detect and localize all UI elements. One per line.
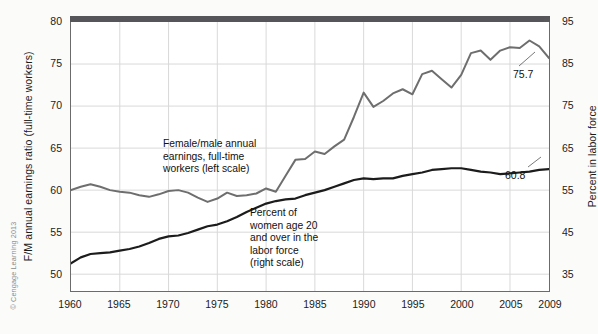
y-tick-right-45: 45 <box>562 226 586 238</box>
y-axis-left-title: F/M annual earnings ratio (full-time wor… <box>22 51 35 261</box>
y-tick-left-55: 55 <box>38 226 62 238</box>
y-tick-right-35: 35 <box>562 268 586 280</box>
x-tick-1995: 1995 <box>393 298 433 310</box>
data-label-dark-end: 60.8 <box>505 169 525 181</box>
annotation-gray-series: Female/male annual earnings, full-time w… <box>163 138 256 176</box>
x-tick-1990: 1990 <box>344 298 384 310</box>
annotation-dark-series: Percent of women age 20 and over in the … <box>250 207 318 270</box>
x-tick-1985: 1985 <box>295 298 335 310</box>
y-tick-left-60: 60 <box>38 184 62 196</box>
y-tick-left-75: 75 <box>38 57 62 69</box>
x-tick-1970: 1970 <box>148 298 188 310</box>
y-axis-right-title: Percent in labor force <box>586 51 598 261</box>
y-tick-left-65: 65 <box>38 142 62 154</box>
x-tick-2009: 2009 <box>530 298 570 310</box>
x-tick-2005: 2005 <box>491 298 531 310</box>
copyright-credit: © Cengage Learning 2013 <box>9 190 18 310</box>
y-tick-right-95: 95 <box>562 15 586 27</box>
y-tick-left-80: 80 <box>38 15 62 27</box>
y-tick-right-75: 75 <box>562 99 586 111</box>
x-tick-1975: 1975 <box>197 298 237 310</box>
y-tick-right-65: 65 <box>562 142 586 154</box>
x-tick-2000: 2000 <box>442 298 482 310</box>
y-tick-left-70: 70 <box>38 99 62 111</box>
x-tick-1980: 1980 <box>246 298 286 310</box>
data-label-gray-end: 75.7 <box>513 68 533 80</box>
x-tick-1960: 1960 <box>50 298 90 310</box>
x-tick-1965: 1965 <box>99 298 139 310</box>
y-tick-right-55: 55 <box>562 184 586 196</box>
y-tick-left-50: 50 <box>38 268 62 280</box>
chart-figure: F/M annual earnings ratio (full-time wor… <box>0 0 598 334</box>
y-tick-right-85: 85 <box>562 57 586 69</box>
series-line-gray <box>71 40 549 201</box>
